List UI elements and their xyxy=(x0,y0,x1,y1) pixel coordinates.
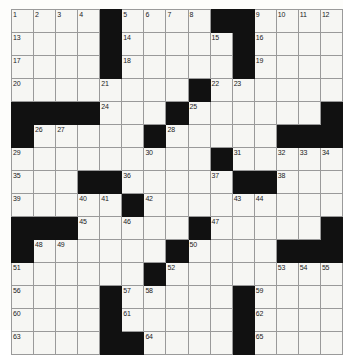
crossword-cell[interactable] xyxy=(144,171,166,194)
crossword-cell[interactable] xyxy=(232,217,254,240)
crossword-cell-numbered[interactable]: 55 xyxy=(320,263,342,286)
crossword-cell[interactable] xyxy=(144,102,166,125)
crossword-cell-numbered[interactable]: 24 xyxy=(100,102,122,125)
crossword-cell[interactable] xyxy=(188,286,210,309)
crossword-cell[interactable] xyxy=(144,240,166,263)
crossword-cell[interactable] xyxy=(210,56,232,79)
crossword-cell[interactable] xyxy=(34,79,56,102)
crossword-cell[interactable] xyxy=(78,148,100,171)
crossword-cell-numbered[interactable]: 18 xyxy=(122,56,144,79)
crossword-cell-numbered[interactable]: 37 xyxy=(210,171,232,194)
crossword-cell[interactable] xyxy=(122,79,144,102)
crossword-cell[interactable] xyxy=(144,56,166,79)
crossword-cell[interactable] xyxy=(232,263,254,286)
crossword-cell-numbered[interactable]: 63 xyxy=(12,332,34,355)
crossword-cell-numbered[interactable]: 46 xyxy=(122,217,144,240)
crossword-cell-numbered[interactable]: 6 xyxy=(144,10,166,33)
crossword-cell[interactable] xyxy=(298,79,320,102)
crossword-cell[interactable] xyxy=(56,148,78,171)
crossword-cell[interactable] xyxy=(78,56,100,79)
crossword-cell[interactable] xyxy=(232,240,254,263)
crossword-cell-numbered[interactable]: 40 xyxy=(78,194,100,217)
crossword-cell-numbered[interactable]: 30 xyxy=(144,148,166,171)
crossword-cell-numbered[interactable]: 65 xyxy=(254,332,276,355)
crossword-cell[interactable] xyxy=(34,286,56,309)
crossword-cell[interactable] xyxy=(210,240,232,263)
crossword-cell[interactable] xyxy=(56,171,78,194)
crossword-cell[interactable] xyxy=(122,148,144,171)
crossword-cell[interactable] xyxy=(144,309,166,332)
crossword-cell-numbered[interactable]: 1 xyxy=(12,10,34,33)
crossword-cell-numbered[interactable]: 9 xyxy=(254,10,276,33)
crossword-cell-numbered[interactable]: 12 xyxy=(320,10,342,33)
crossword-cell[interactable] xyxy=(34,332,56,355)
crossword-cell[interactable] xyxy=(210,194,232,217)
crossword-cell[interactable] xyxy=(276,56,298,79)
crossword-cell[interactable] xyxy=(166,286,188,309)
crossword-cell[interactable] xyxy=(232,102,254,125)
crossword-cell-numbered[interactable]: 62 xyxy=(254,309,276,332)
crossword-cell-numbered[interactable]: 19 xyxy=(254,56,276,79)
crossword-cell[interactable] xyxy=(56,309,78,332)
crossword-cell[interactable] xyxy=(298,33,320,56)
crossword-cell-numbered[interactable]: 27 xyxy=(56,125,78,148)
crossword-cell[interactable] xyxy=(166,33,188,56)
crossword-cell-numbered[interactable]: 22 xyxy=(210,79,232,102)
crossword-cell[interactable] xyxy=(100,125,122,148)
crossword-cell-numbered[interactable]: 20 xyxy=(12,79,34,102)
crossword-cell-numbered[interactable]: 7 xyxy=(166,10,188,33)
crossword-cell-numbered[interactable]: 10 xyxy=(276,10,298,33)
crossword-cell-numbered[interactable]: 41 xyxy=(100,194,122,217)
crossword-cell[interactable] xyxy=(320,33,342,56)
crossword-cell-numbered[interactable]: 50 xyxy=(188,240,210,263)
crossword-cell[interactable] xyxy=(188,56,210,79)
crossword-cell[interactable] xyxy=(166,309,188,332)
crossword-cell[interactable] xyxy=(166,56,188,79)
crossword-cell[interactable] xyxy=(56,33,78,56)
crossword-cell-numbered[interactable]: 31 xyxy=(232,148,254,171)
crossword-cell[interactable] xyxy=(254,102,276,125)
crossword-cell-numbered[interactable]: 21 xyxy=(100,79,122,102)
crossword-cell[interactable] xyxy=(144,33,166,56)
crossword-cell[interactable] xyxy=(320,194,342,217)
crossword-cell[interactable] xyxy=(34,171,56,194)
crossword-cell[interactable] xyxy=(232,125,254,148)
crossword-cell-numbered[interactable]: 39 xyxy=(12,194,34,217)
crossword-cell-numbered[interactable]: 61 xyxy=(122,309,144,332)
crossword-cell[interactable] xyxy=(78,332,100,355)
crossword-cell-numbered[interactable]: 3 xyxy=(56,10,78,33)
crossword-cell-numbered[interactable]: 44 xyxy=(254,194,276,217)
crossword-cell[interactable] xyxy=(210,125,232,148)
crossword-cell[interactable] xyxy=(210,286,232,309)
crossword-cell[interactable] xyxy=(188,309,210,332)
crossword-cell[interactable] xyxy=(122,102,144,125)
crossword-cell[interactable] xyxy=(166,332,188,355)
crossword-cell-numbered[interactable]: 28 xyxy=(166,125,188,148)
crossword-cell[interactable] xyxy=(254,240,276,263)
crossword-cell[interactable] xyxy=(34,263,56,286)
crossword-cell-numbered[interactable]: 64 xyxy=(144,332,166,355)
crossword-cell-numbered[interactable]: 29 xyxy=(12,148,34,171)
crossword-cell[interactable] xyxy=(320,56,342,79)
crossword-cell[interactable] xyxy=(34,194,56,217)
crossword-cell[interactable] xyxy=(78,79,100,102)
crossword-cell[interactable] xyxy=(56,56,78,79)
crossword-cell[interactable] xyxy=(34,309,56,332)
crossword-cell[interactable] xyxy=(100,240,122,263)
crossword-cell[interactable] xyxy=(78,263,100,286)
crossword-cell-numbered[interactable]: 57 xyxy=(122,286,144,309)
crossword-cell[interactable] xyxy=(34,56,56,79)
crossword-cell[interactable] xyxy=(100,263,122,286)
crossword-cell-numbered[interactable]: 26 xyxy=(34,125,56,148)
crossword-cell[interactable] xyxy=(122,240,144,263)
crossword-cell-numbered[interactable]: 2 xyxy=(34,10,56,33)
crossword-cell[interactable] xyxy=(78,240,100,263)
crossword-cell[interactable] xyxy=(298,332,320,355)
crossword-cell[interactable] xyxy=(210,263,232,286)
crossword-cell[interactable] xyxy=(254,217,276,240)
crossword-cell[interactable] xyxy=(100,148,122,171)
crossword-cell[interactable] xyxy=(210,309,232,332)
crossword-cell[interactable] xyxy=(122,125,144,148)
crossword-cell[interactable] xyxy=(166,79,188,102)
crossword-cell[interactable] xyxy=(188,33,210,56)
